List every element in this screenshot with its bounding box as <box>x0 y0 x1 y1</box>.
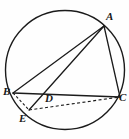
chord-a-c <box>104 26 120 97</box>
geometry-figure: A B C D E <box>0 0 129 139</box>
vertex-label-c: C <box>119 92 126 103</box>
chord-b-c <box>13 93 120 97</box>
vertex-label-e: E <box>19 113 26 124</box>
chord-a-b <box>13 26 104 93</box>
dashed-segment-e-c <box>29 97 120 110</box>
vertex-label-a: A <box>106 11 113 22</box>
vertex-label-d: D <box>45 93 53 104</box>
vertex-label-b: B <box>3 86 10 97</box>
dashed-segment-b-e <box>13 93 29 110</box>
chord-a-e-through-d <box>29 26 104 110</box>
